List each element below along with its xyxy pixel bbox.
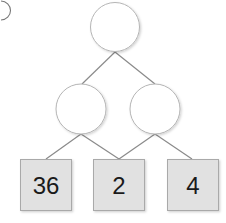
leaf-box-2-label: 2 bbox=[112, 172, 125, 199]
edge-mid-left-to-leaf-2 bbox=[81, 134, 119, 159]
leaf-box-3: 4 bbox=[168, 160, 219, 211]
leaf-box-2: 2 bbox=[94, 160, 145, 211]
corner-label-marker bbox=[1, 1, 11, 20]
edge-mid-left-to-leaf-1 bbox=[46, 134, 81, 159]
tree-diagram: 36 2 4 bbox=[0, 0, 226, 223]
node-top bbox=[91, 3, 140, 52]
edge-mid-right-to-leaf-3 bbox=[155, 134, 192, 159]
edge-mid-right-to-leaf-2 bbox=[119, 134, 155, 159]
node-mid-left bbox=[56, 84, 106, 134]
leaf-box-1-label: 36 bbox=[33, 172, 60, 199]
node-mid-right bbox=[130, 84, 180, 134]
edge-top-to-mid-left bbox=[82, 52, 115, 84]
leaf-box-1: 36 bbox=[21, 160, 72, 211]
edge-top-to-mid-right bbox=[115, 52, 155, 84]
leaf-box-3-label: 4 bbox=[186, 172, 199, 199]
